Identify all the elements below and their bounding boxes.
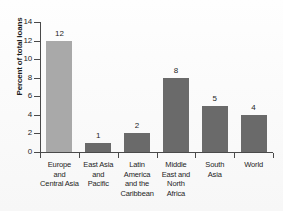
x-axis-category-label-line: Asia (193, 170, 236, 180)
x-axis-category-label: LatinAmericaand theCaribbean (116, 160, 159, 198)
bar-value-label: 2 (123, 122, 151, 130)
x-axis-category-label: World (232, 160, 275, 170)
x-axis-tick (195, 153, 196, 158)
y-axis-tick-label: 12 (8, 37, 32, 45)
y-axis-tick-label: 8 (8, 74, 32, 82)
bar (46, 41, 72, 152)
x-axis-category-label-line: East and (155, 170, 198, 180)
y-axis-tick-label: 0 (8, 148, 32, 156)
x-axis-tick (234, 153, 235, 158)
bar (124, 133, 150, 152)
x-axis-category-label: SouthAsia (193, 160, 236, 179)
y-axis-tick-label: 6 (8, 92, 32, 100)
x-axis-category-label-line: Middle (155, 160, 198, 170)
x-axis-category-label-line: Central Asia (38, 179, 81, 189)
x-axis-tick (79, 153, 80, 158)
bar-chart-figure: Percent of total loans 02468101214 Europ… (0, 0, 283, 211)
x-axis-category-label-line: America (116, 170, 159, 180)
x-axis-category-label-line: South (193, 160, 236, 170)
bar-value-label: 8 (162, 67, 190, 75)
x-axis-tick (157, 153, 158, 158)
x-axis-category-label-line: and (38, 170, 81, 180)
x-axis-category-label-line: North (155, 179, 198, 189)
y-axis-tick-label: 10 (8, 55, 32, 63)
bar (85, 143, 111, 152)
x-axis-category-label-line: Pacific (77, 179, 120, 189)
y-axis-tick-label: 4 (8, 111, 32, 119)
bar-value-label: 12 (45, 30, 73, 38)
x-axis-category-label-line: East Asia (77, 160, 120, 170)
y-axis-tick-label: 14 (8, 18, 32, 26)
x-axis-category-label-line: Europe (38, 160, 81, 170)
x-axis-category-label-line: Africa (155, 189, 198, 199)
x-axis-tick (273, 153, 274, 158)
x-axis-category-label-line: Latin (116, 160, 159, 170)
bar-value-label: 5 (201, 95, 229, 103)
plot-area (40, 22, 273, 152)
x-axis-category-label-line: and (77, 170, 120, 180)
bar-value-label: 4 (240, 104, 268, 112)
x-axis-category-label: MiddleEast andNorthAfrica (155, 160, 198, 198)
x-axis-category-label: EuropeandCentral Asia (38, 160, 81, 189)
x-axis-tick (118, 153, 119, 158)
x-axis-category-label-line: World (232, 160, 275, 170)
bar (163, 78, 189, 152)
bar (202, 106, 228, 152)
y-axis-tick-label: 2 (8, 129, 32, 137)
x-axis-category-label-line: Caribbean (116, 189, 159, 199)
bar-value-label: 1 (84, 132, 112, 140)
bar (241, 115, 267, 152)
x-axis-category-label-line: and the (116, 179, 159, 189)
x-axis-category-label: East AsiaandPacific (77, 160, 120, 189)
x-axis-tick (40, 153, 41, 158)
